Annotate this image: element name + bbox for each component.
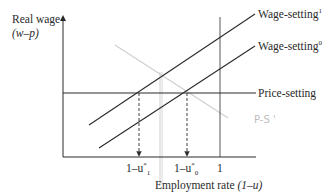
tick-label-u0: 1–u*0 <box>174 162 198 175</box>
wage-setting-1-line <box>89 14 255 125</box>
tick-label-one: 1 <box>217 162 223 175</box>
y-axis-unit: (w–p) <box>12 27 39 40</box>
y-axis-label: Real wage <box>12 13 60 26</box>
wage-setting-1-label: Wage-setting1 <box>258 8 322 21</box>
pencil-line <box>115 45 228 118</box>
wage-setting-0-label: Wage-setting0 <box>258 40 322 53</box>
x-axis-label: Employment rate (1–u) <box>155 179 262 192</box>
tick-label-u1: 1–u*1 <box>126 162 150 175</box>
wage-setting-0-line <box>99 46 255 148</box>
handwritten-annotation: P-S ' <box>254 113 276 126</box>
price-setting-label: Price-setting <box>258 87 316 100</box>
